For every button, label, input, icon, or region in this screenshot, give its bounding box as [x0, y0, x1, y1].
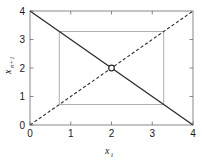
x-axis-title: x i	[104, 145, 113, 159]
x-tick-label-4: 4	[190, 128, 196, 139]
y-axis-title-subscript: n+1	[8, 56, 16, 68]
y-tick-label-0: 0	[19, 120, 25, 131]
x-tick-label-1: 1	[68, 128, 74, 139]
y-axis-title-base: x	[2, 69, 13, 75]
y-tick-label-1: 1	[19, 91, 25, 102]
y-tick-label-4: 4	[19, 6, 25, 17]
cobweb-diagram-figure: 0 1 2 3 4 0 1 2 3 4 x i x n+1	[0, 0, 203, 160]
x-axis-title-subscript: i	[111, 151, 113, 159]
x-tick-label-2: 2	[109, 128, 115, 139]
fixed-point-marker	[109, 65, 115, 71]
chart-canvas: 0 1 2 3 4 0 1 2 3 4 x i x n+1	[0, 0, 203, 160]
x-axis-title-base: x	[104, 145, 110, 156]
y-tick-label-3: 3	[19, 34, 25, 45]
x-tick-label-3: 3	[149, 128, 155, 139]
x-tick-label-0: 0	[27, 128, 33, 139]
y-axis-title: x n+1	[2, 56, 16, 75]
y-tick-label-2: 2	[19, 63, 25, 74]
